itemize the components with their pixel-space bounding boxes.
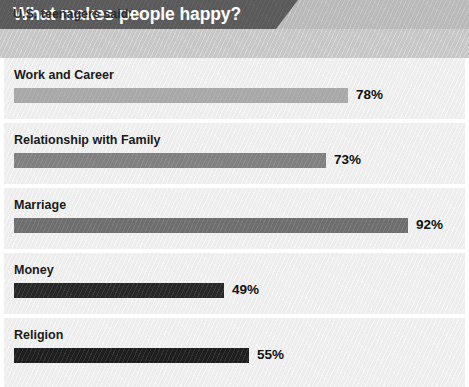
- bar-row: Work and Career 78%: [4, 58, 465, 119]
- bar-value-label: 55%: [257, 347, 284, 362]
- bar-fill: [14, 88, 348, 103]
- chart-subtitle: U.S. teenagers said:: [13, 7, 133, 21]
- bar-track: 73%: [14, 153, 455, 168]
- bar-category-label: Marriage: [14, 198, 66, 212]
- bar-category-label: Religion: [14, 328, 63, 342]
- plot-area: Work and Career 78% Relationship with Fa…: [0, 58, 469, 387]
- bar-category-label: Money: [14, 263, 54, 277]
- bar-value-label: 78%: [356, 87, 383, 102]
- bar-fill: [14, 218, 408, 233]
- bar-category-label: Relationship with Family: [14, 133, 161, 147]
- subtitle-band: [0, 29, 469, 58]
- bar-row: Relationship with Family 73%: [4, 123, 465, 184]
- bar-value-label: 49%: [232, 282, 259, 297]
- bar-row: Religion 55%: [4, 318, 465, 387]
- bar-track: 55%: [14, 348, 455, 363]
- bar-row: Marriage 92%: [4, 188, 465, 249]
- bar-value-label: 92%: [416, 217, 443, 232]
- bar-track: 49%: [14, 283, 455, 298]
- bar-fill: [14, 153, 326, 168]
- bar-category-label: Work and Career: [14, 68, 114, 82]
- bar-row: Money 49%: [4, 253, 465, 314]
- bar-track: 78%: [14, 88, 455, 103]
- bar-value-label: 73%: [334, 152, 361, 167]
- bar-fill: [14, 283, 224, 298]
- bar-track: 92%: [14, 218, 455, 233]
- infographic-bar-chart: What makes people happy? U.S. teenagers …: [0, 0, 469, 387]
- bar-fill: [14, 348, 249, 363]
